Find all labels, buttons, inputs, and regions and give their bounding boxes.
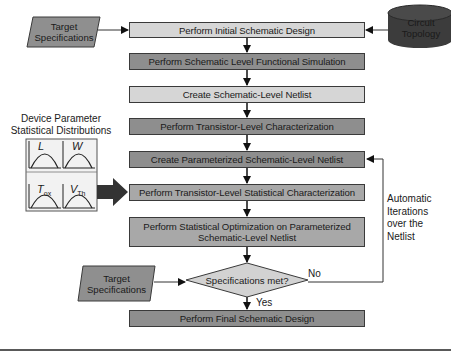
step-statistical-optimization: Perform Statistical Optimization on Para… (129, 217, 365, 247)
dist-label-W: W (72, 140, 82, 152)
target-specs-top-line1: Target (51, 21, 78, 32)
step-label: Perform Initial Schematic Design (179, 25, 315, 36)
big-arrow-icon (97, 178, 128, 206)
target-specs-top-line2: Specifications (34, 32, 93, 43)
step-create-netlist: Create Schematic-Level Netlist (129, 86, 365, 103)
loop-note-line2: Iterations (387, 206, 428, 217)
step-label: Perform Schematic Level Functional Simul… (148, 56, 345, 67)
decision-label: Specifications met? (190, 274, 304, 287)
decision-no-label: No (308, 268, 321, 280)
loop-note-line3: over the (387, 218, 423, 229)
target-specs-top: TargetSpecifications (30, 18, 98, 46)
device-params-panel (26, 139, 97, 211)
target-specs-bottom-line2: Specifications (87, 284, 146, 295)
step-label-line2: Schematic-Level Netlist (198, 232, 296, 243)
device-params-title: Device Parameter Statistical Distributio… (4, 113, 118, 137)
step-transistor-characterization: Perform Transistor-Level Characterizatio… (129, 118, 365, 135)
step-initial-design: Perform Initial Schematic Design (129, 22, 365, 38)
step-label: Perform Transistor-Level Statistical Cha… (139, 187, 355, 198)
step-statistical-characterization: Perform Transistor-Level Statistical Cha… (129, 184, 365, 201)
target-specs-bottom: TargetSpecifications (80, 268, 153, 299)
step-label: Perform Transistor-Level Characterizatio… (160, 121, 333, 132)
device-params-title-line2: Statistical Distributions (11, 125, 112, 136)
dist-label-VTh: VTh (70, 183, 86, 197)
loop-note-line4: Netlist (387, 231, 415, 242)
decision-yes-label: Yes (256, 297, 272, 309)
circuit-topology-line1: Circuit (407, 17, 434, 28)
step-label-line1: Perform Statistical Optimization on Para… (143, 221, 350, 232)
circuit-topology-line2: Topology (402, 28, 440, 39)
circuit-topology-label: Circuit Topology (392, 17, 450, 39)
decision-text: Specifications met? (205, 275, 288, 286)
step-label: Create Schematic-Level Netlist (183, 89, 312, 100)
step-functional-simulation: Perform Schematic Level Functional Simul… (129, 53, 365, 70)
step-final-design: Perform Final Schematic Design (129, 310, 365, 327)
loop-note-line1: Automatic (387, 193, 431, 204)
dist-label-L: L (38, 140, 44, 152)
flowchart-canvas: TargetSpecifications Circuit Topology Pe… (0, 0, 451, 352)
target-specs-bottom-line1: Target (103, 273, 130, 284)
dist-label-Tox: Tox (37, 183, 51, 197)
step-label: Perform Final Schematic Design (180, 313, 315, 324)
device-params-title-line1: Device Parameter (21, 113, 101, 124)
step-label: Create Parameterized Schematic-Level Net… (151, 154, 343, 165)
loop-note: Automatic Iterations over the Netlist (387, 193, 431, 243)
step-parameterized-netlist: Create Parameterized Schematic-Level Net… (129, 151, 365, 168)
